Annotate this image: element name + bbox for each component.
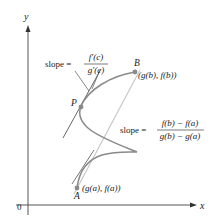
x-axis-label: x — [199, 200, 205, 211]
secant-slope-prefix: slope = — [120, 125, 146, 135]
y-axis-label: y — [23, 11, 29, 22]
x-axis-arrow-icon — [190, 203, 197, 208]
tangent-slope-numerator: f′(c) — [89, 52, 103, 62]
cauchy-mvt-diagram: y x 0 P B (g(b), f(b)) A (g(a), f(a)) sl… — [0, 0, 220, 222]
secant-slope-denominator: g(b) − g(a) — [160, 131, 201, 141]
tangent-slope-prefix: slope = — [45, 59, 71, 69]
secant-slope-label: slope = f(b) − f(a) g(b) − g(a) — [120, 118, 204, 141]
tangent-line-near-a — [72, 150, 94, 184]
point-b-coords: (g(b), f(b)) — [138, 70, 176, 80]
point-a-label: A — [73, 191, 80, 201]
y-axis-arrow-icon — [26, 25, 31, 32]
point-a-coords: (g(a), f(a)) — [82, 183, 120, 193]
point-a — [75, 186, 80, 191]
point-p — [79, 105, 84, 110]
point-p-label: P — [70, 98, 77, 108]
point-b — [133, 70, 138, 75]
origin-label: 0 — [17, 202, 22, 212]
secant-slope-numerator: f(b) − f(a) — [162, 118, 199, 128]
tangent-slope-label: slope = f′(c) g′(c) — [45, 52, 108, 75]
point-b-label: B — [134, 58, 140, 68]
tangent-slope-denominator: g′(c) — [88, 65, 104, 75]
